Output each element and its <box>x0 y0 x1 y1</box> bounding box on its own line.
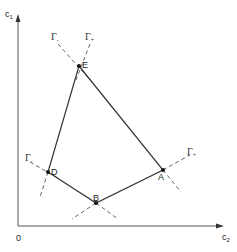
point-e <box>77 64 81 68</box>
label-e: E <box>82 60 88 70</box>
x-axis-arrow-icon <box>216 224 224 229</box>
feasible-polygon <box>48 66 163 203</box>
point-d <box>46 170 50 174</box>
gamma-minus-top-label: Γ- <box>51 31 59 43</box>
gamma-right-lower-line <box>163 170 181 192</box>
gamma-minus-left-label: Γ- <box>25 152 33 164</box>
gamma-plus-right-line <box>163 155 190 170</box>
x-axis-label: c2 <box>222 232 231 243</box>
gamma-b-right-line <box>96 203 118 219</box>
label-a: A <box>158 172 164 182</box>
gamma-b-left-line <box>72 203 96 219</box>
y-axis-label: c1 <box>5 9 14 20</box>
gamma-plus-top-label: Γ+ <box>85 31 95 43</box>
gamma-left-lower-line <box>40 172 48 197</box>
label-b: B <box>93 193 99 203</box>
label-d: D <box>51 167 58 177</box>
gamma-plus-right-label: Γ+ <box>187 146 197 158</box>
y-axis-arrow-icon <box>16 14 21 22</box>
diagram: c1 c2 0 E A B D Γ- Γ+ Γ- Γ+ <box>0 0 237 252</box>
origin-label: 0 <box>16 233 21 243</box>
